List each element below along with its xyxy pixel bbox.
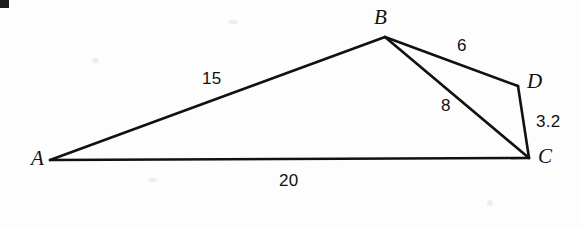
geometry-figure: A B C D 15 20 6 8 3.2 (0, 0, 582, 227)
vertex-label-a: A (31, 148, 44, 169)
paper-speck (92, 58, 99, 63)
segment-AB (50, 37, 385, 160)
paper-speck (148, 178, 157, 182)
length-label-bd: 6 (457, 37, 467, 54)
diagram-canvas (0, 0, 582, 227)
length-label-dc: 3.2 (536, 113, 561, 130)
segment-BC (385, 37, 529, 158)
vertex-label-b: B (374, 7, 387, 28)
paper-speck (487, 200, 493, 206)
segment-DC (518, 86, 529, 158)
segment-BD (385, 37, 518, 86)
vertex-label-d: D (527, 71, 542, 92)
segment-AC (50, 158, 529, 160)
length-label-ab: 15 (202, 70, 222, 87)
length-label-bc: 8 (441, 97, 451, 114)
length-label-ac: 20 (279, 172, 299, 189)
vertex-label-c: C (538, 146, 552, 167)
paper-speck (228, 20, 238, 24)
